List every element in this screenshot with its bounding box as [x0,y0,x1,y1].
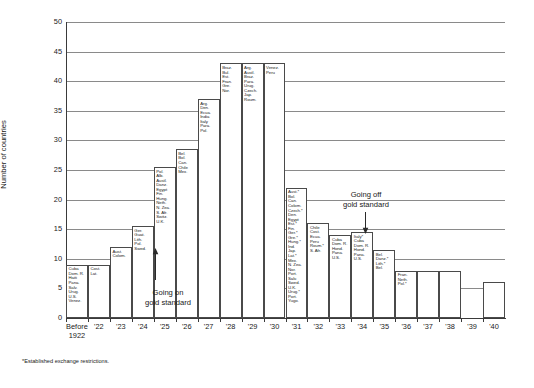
bar-country-name: Colom. [112,254,130,259]
x-tick-mark [329,318,330,322]
bar-country-list: Bel.Danz.*Lith.*Bel. [374,251,394,271]
x-tick-mark [110,318,111,322]
bar-country-list: CubaDom. R.HaitiPana.Salv.Urug.U.S.Venez… [67,266,87,304]
bar-country-name: Pol.* [398,282,416,287]
x-tick-mark [242,318,243,322]
y-axis-title: Number of countries [0,75,8,235]
arrow-down-icon [361,212,370,234]
x-tick-mark [395,318,396,322]
annotation-going-off-line1: Going off [351,190,382,199]
bar-country-name: U.S. [332,256,350,261]
bar-country-list: Italy*CubaDom. R.Hond.Pana.U.S. [352,233,372,262]
bar-country-name: Nor. [222,89,240,94]
bar[interactable]: CubaDom. R.HaitiPana.Salv.Urug.U.S.Venez… [66,265,88,318]
y-axis-title-container: Number of countries [0,0,20,388]
y-tick-label: 20 [22,196,62,204]
bar[interactable]: CubaDom. R.Hond.Pana.U.S. [329,235,351,318]
bar[interactable]: Arg.Den.Ecua.IndiaItalyPara.Pol. [198,99,220,318]
bar[interactable] [483,282,505,318]
x-tick-mark [439,318,440,322]
y-axis-ticks: 05101520253035404550 [18,22,62,319]
x-tick-mark [264,318,265,322]
y-tick-label: 40 [22,77,62,85]
chart-root: Number of countries 05101520253035404550… [0,0,534,388]
bar-country-list: Cost.Lat. [89,266,109,277]
bar-country-list: Aust.Colom. [111,248,131,259]
bar[interactable]: Fran.Neth.Pol.* [395,271,417,318]
bar-country-name: Mex. [178,170,196,175]
bar[interactable] [439,271,461,318]
bar-country-list: Venez.Peru [265,64,285,75]
x-tick-mark [154,318,155,322]
bar-country-list: Pol.Alb.Austl.Danz.EgyptFin.Hung.Neth.N.… [155,168,175,224]
bar[interactable]: Arg.Austl.Braz.Para.Urug.Czech.Jap.Roum. [242,63,264,318]
bar-country-name: U.K. [156,220,174,225]
x-tick-mark [417,318,418,322]
x-tick-label: '40 [475,322,513,331]
x-tick-mark [307,318,308,322]
annotation-going-off-line2: gold standard [343,200,389,209]
bar-country-name: Bel. [376,266,394,271]
bar[interactable]: Aust.*Bol.Can.Colom.Czech.*Den.EgyptEst.… [286,188,308,318]
bar-country-name: Peru [266,71,284,76]
x-tick-mark [66,318,67,322]
x-tick-mark [286,318,287,322]
bar-country-name: Roum. [244,98,262,103]
bar-country-name: Pol. [200,129,218,134]
bar[interactable]: Bel.Danz.*Lith.*Bel. [373,250,395,318]
annotation-going-on-line1: Going on [153,288,184,297]
y-tick-label: 30 [22,136,62,144]
x-tick-mark [351,318,352,322]
annotation-going-off-gold: Going off gold standard [318,190,414,210]
y-tick-label: 35 [22,107,62,115]
bar[interactable]: Braz.Bul.Est.Fran.Gre.Nor. [220,63,242,318]
x-tick-mark [483,318,484,322]
x-tick-mark [176,318,177,322]
bar-country-list: Arg.Austl.Braz.Para.Urug.Czech.Jap.Roum. [243,64,263,102]
y-tick-label: 25 [22,166,62,174]
y-tick-label: 45 [22,48,62,56]
y-tick-label: 50 [22,18,62,26]
x-tick-mark [132,318,133,322]
bar-country-name: Yugo. [288,299,306,304]
bar-country-list: Aust.*Bol.Can.Colom.Czech.*Den.EgyptEst.… [287,189,307,304]
bar-country-list: Bel.Bol.Can.ChileMex. [177,150,197,174]
arrow-up-icon [151,248,160,280]
annotation-going-on-gold: Going on gold standard [120,288,216,308]
y-tick-label: 5 [22,284,62,292]
bar-country-name: Venez. [69,299,87,304]
bar[interactable]: Venez.Peru [264,63,286,318]
bar-country-list: Ger.Guat.Lith.Pol.Swed. [133,227,153,251]
annotation-going-on-line2: gold standard [145,298,191,307]
y-tick-label: 15 [22,225,62,233]
bar-country-list: Braz.Bul.Est.Fran.Gre.Nor. [221,64,241,93]
bar[interactable]: Italy*CubaDom. R.Hond.Pana.U.S. [351,232,373,318]
bar-country-name: Lat. [90,272,108,277]
x-tick-mark [198,318,199,322]
y-tick-label: 10 [22,255,62,263]
x-tick-mark [373,318,374,322]
x-tick-mark [220,318,221,322]
bar-country-name: U.S. [354,257,372,262]
bar-series: CubaDom. R.HaitiPana.Salv.Urug.U.S.Venez… [66,22,505,318]
x-tick-mark [461,318,462,322]
y-tick-label: 0 [22,314,62,322]
bar[interactable]: ChileCost.Ecua.PeruRoum.*S. Afr. [307,223,329,318]
bar[interactable] [417,271,439,318]
bar-country-name: S. Afr. [310,249,328,254]
footnote: *Established exchange restrictions. [22,358,109,364]
bar-country-list: ChileCost.Ecua.PeruRoum.*S. Afr. [308,224,328,253]
bar-country-list: Fran.Neth.Pol.* [396,272,416,287]
x-tick-mark [88,318,89,322]
bar-country-list: Arg.Den.Ecua.IndiaItalyPara.Pol. [199,100,219,133]
bar-country-list: CubaDom. R.Hond.Pana.U.S. [330,236,350,260]
bar[interactable]: Cost.Lat. [88,265,110,318]
